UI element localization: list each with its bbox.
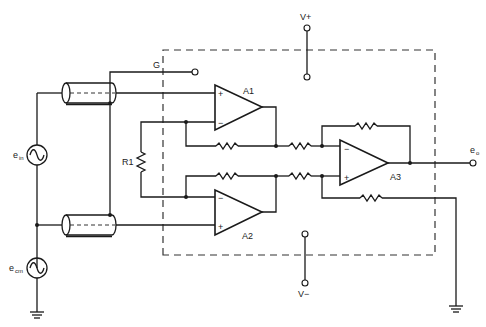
svg-text:A1: A1	[243, 86, 254, 96]
instrumentation-amplifier-schematic: G V+ V− e in e cm	[0, 0, 486, 327]
svg-text:+: +	[344, 173, 349, 183]
guard-label: G	[153, 60, 160, 70]
guard-terminal: G	[110, 60, 198, 102]
op-amp-a1: + − A1	[215, 85, 262, 130]
a3-reference-resistor	[322, 176, 456, 306]
svg-text:+: +	[218, 222, 223, 232]
svg-text:o: o	[476, 150, 480, 156]
a2-feedback-resistor	[186, 173, 276, 197]
svg-text:−: −	[344, 144, 349, 154]
v-plus-label: V+	[300, 12, 311, 22]
upper-shielded-cable	[62, 83, 215, 105]
svg-text:−: −	[218, 118, 223, 128]
a3-input-resistor-upper	[276, 143, 340, 149]
svg-text:cm: cm	[15, 268, 23, 274]
svg-text:−: −	[218, 193, 223, 203]
v-plus-supply: V+	[300, 12, 311, 80]
a3-input-resistor-lower	[276, 173, 340, 179]
svg-text:e: e	[470, 145, 475, 155]
gain-resistor-r1: R1	[122, 122, 215, 197]
output-terminal	[470, 160, 476, 166]
ground-icon	[30, 312, 44, 318]
v-minus-label: V−	[298, 289, 309, 299]
e-in-source: e in	[13, 93, 62, 268]
ground-icon	[449, 306, 463, 312]
svg-text:A3: A3	[390, 172, 401, 182]
svg-text:in: in	[19, 155, 24, 161]
lower-shielded-cable	[62, 215, 215, 237]
svg-text:R1: R1	[122, 157, 134, 167]
enclosure-boundary	[163, 50, 435, 255]
svg-text:A2: A2	[242, 231, 253, 241]
a1-feedback-resistor	[186, 122, 276, 149]
svg-text:e: e	[9, 263, 14, 273]
op-amp-a2: − + A2	[215, 190, 262, 241]
svg-text:e: e	[13, 150, 18, 160]
v-minus-supply: V−	[298, 231, 309, 299]
e-cm-source: e cm	[9, 258, 47, 312]
svg-text:+: +	[218, 89, 223, 99]
